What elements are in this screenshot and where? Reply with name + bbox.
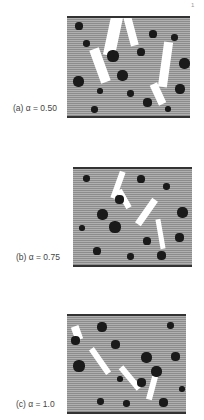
crack-region	[123, 16, 138, 47]
aggregate	[127, 90, 134, 97]
aggregate	[175, 233, 184, 242]
aggregate	[137, 48, 145, 56]
aggregate	[143, 237, 151, 245]
panel-b-caption: (b) α = 0.75	[16, 252, 60, 262]
aggregate	[171, 352, 180, 361]
aggregate	[73, 76, 84, 87]
aggregate	[157, 251, 166, 260]
aggregate	[73, 360, 85, 372]
aggregate	[93, 247, 101, 255]
aggregate	[179, 58, 190, 69]
page-corner-mark: 1	[191, 2, 194, 8]
crack-region	[155, 219, 165, 249]
aggregate	[97, 209, 108, 220]
aggregate	[127, 253, 134, 260]
aggregate	[167, 322, 174, 329]
aggregate	[123, 400, 130, 407]
crack-region	[135, 198, 158, 227]
aggregate	[137, 175, 145, 183]
aggregate	[117, 70, 128, 81]
aggregate	[75, 22, 83, 30]
aggregate	[111, 340, 120, 349]
aggregate	[97, 88, 103, 94]
aggregate	[97, 322, 107, 332]
aggregate	[83, 175, 90, 182]
aggregate	[109, 221, 121, 233]
aggregate	[151, 366, 162, 377]
aggregate	[141, 352, 152, 363]
crack-region	[89, 347, 111, 375]
aggregate	[165, 106, 171, 112]
panel-c-fracture-image	[67, 314, 186, 414]
aggregate	[71, 336, 80, 345]
aggregate	[79, 225, 85, 231]
panel-b-fracture-image	[73, 167, 192, 267]
aggregate	[149, 30, 157, 38]
aggregate	[171, 34, 178, 41]
aggregate	[179, 386, 185, 392]
aggregate	[107, 50, 119, 62]
aggregate	[159, 398, 168, 407]
panel-a-fracture-image	[67, 16, 190, 118]
aggregate	[83, 40, 90, 47]
panel-a-caption: (a) α = 0.50	[13, 103, 57, 113]
aggregate	[163, 183, 170, 190]
aggregate	[175, 84, 185, 94]
aggregate	[91, 106, 98, 113]
aggregate	[115, 195, 124, 204]
aggregate	[143, 98, 152, 107]
aggregate	[177, 207, 188, 218]
crack-region	[146, 376, 158, 401]
panel-c-caption: (c) α = 1.0	[16, 399, 55, 409]
aggregate	[117, 376, 123, 382]
aggregate	[137, 378, 146, 387]
crack-region	[158, 42, 173, 88]
aggregate	[97, 398, 104, 405]
